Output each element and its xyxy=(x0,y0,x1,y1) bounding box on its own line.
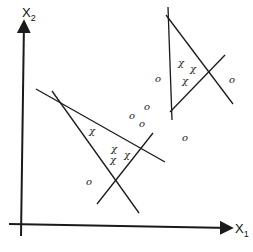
x1-axis-label: X1 xyxy=(235,221,249,239)
x-class-points: χχχχχχχ xyxy=(88,57,197,165)
classification-diagram: X1 X2 χχχχχχχ ooooooo xyxy=(0,0,253,252)
o-point: o xyxy=(229,74,235,85)
boundary-line xyxy=(166,15,233,104)
o-point: o xyxy=(86,176,92,187)
x-point: χ xyxy=(181,75,189,86)
o-point: o xyxy=(129,110,135,121)
o-point: o xyxy=(144,101,150,112)
x-point: χ xyxy=(109,154,117,165)
x-point: χ xyxy=(189,63,197,74)
x-point: χ xyxy=(123,149,131,160)
o-point: o xyxy=(139,118,145,129)
x-point: χ xyxy=(110,143,118,154)
boundary-line xyxy=(168,7,172,120)
o-point: o xyxy=(182,132,188,143)
x1-axis xyxy=(9,224,231,228)
x-point: χ xyxy=(88,125,96,136)
upper-right-triangle xyxy=(166,7,233,120)
o-point: o xyxy=(155,73,161,84)
axes: X1 X2 xyxy=(9,5,249,239)
x2-axis-label: X2 xyxy=(22,5,36,23)
x2-axis xyxy=(21,22,24,236)
x-point: χ xyxy=(177,57,185,68)
